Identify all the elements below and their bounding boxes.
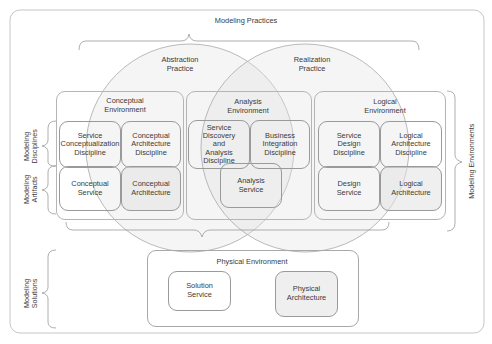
modeling-artifacts-label: Modeling Artifacts bbox=[23, 164, 40, 214]
solutions-brace bbox=[42, 250, 56, 328]
practices-brace bbox=[79, 34, 419, 50]
logical-environment-label: Logical Environment bbox=[345, 98, 425, 115]
box-label: Conceptual Service bbox=[71, 180, 108, 197]
business-integration-discipline-box: Business Integration Discipline bbox=[250, 120, 310, 169]
solution-service-box: Solution Service bbox=[168, 271, 231, 311]
physical-environment-label: Physical Environment bbox=[202, 258, 302, 267]
box-label: Logical Architecture Discipline bbox=[391, 132, 430, 158]
modeling-practices-diagram: Modeling Practices Abstraction Practice … bbox=[0, 0, 492, 344]
modeling-practices-label: Modeling Practices bbox=[196, 17, 296, 26]
box-label: Solution Service bbox=[186, 282, 213, 299]
box-label: Service Design Discipline bbox=[333, 132, 365, 158]
box-label: Service Conceptualization Discipline bbox=[61, 132, 120, 158]
logical-architecture-discipline-box: Logical Architecture Discipline bbox=[380, 121, 442, 168]
modeling-solutions-label: Modeling Solutions bbox=[23, 268, 40, 318]
box-label: Analysis Service bbox=[237, 177, 265, 194]
box-label: Logical Architecture bbox=[391, 180, 430, 197]
conceptual-environment-label: Conceptual Environment bbox=[85, 97, 165, 114]
service-discovery-analysis-discipline-box: Service Discovery and Analysis Disciplin… bbox=[188, 120, 250, 169]
box-label: Conceptual Architecture bbox=[131, 180, 170, 197]
modeling-environments-label: Modeling Environments bbox=[468, 119, 476, 203]
conceptual-architecture-discipline-box: Conceptual Architecture Discipline bbox=[121, 121, 181, 168]
service-conceptualization-discipline-box: Service Conceptualization Discipline bbox=[59, 121, 121, 168]
design-service-box: Design Service bbox=[318, 166, 380, 211]
realization-practice-label: Realization Practice bbox=[272, 56, 352, 73]
box-label: Service Discovery and Analysis Disciplin… bbox=[203, 124, 235, 164]
physical-architecture-box: Physical Architecture bbox=[275, 271, 338, 317]
box-label: Design Service bbox=[337, 180, 362, 197]
box-label: Business Integration Discipline bbox=[263, 132, 298, 158]
abstraction-practice-label: Abstraction Practice bbox=[140, 56, 220, 73]
environments-right-brace bbox=[447, 91, 462, 231]
box-label: Physical Architecture bbox=[287, 285, 326, 302]
logical-architecture-box: Logical Architecture bbox=[380, 166, 442, 211]
conceptual-service-box: Conceptual Service bbox=[59, 166, 121, 211]
disciplines-brace bbox=[42, 121, 56, 166]
analysis-environment-label: Analysis Environment bbox=[208, 98, 288, 115]
analysis-service-box: Analysis Service bbox=[220, 163, 282, 208]
conceptual-architecture-box: Conceptual Architecture bbox=[121, 166, 181, 211]
service-design-discipline-box: Service Design Discipline bbox=[318, 121, 380, 168]
box-label: Conceptual Architecture Discipline bbox=[131, 132, 170, 158]
artifacts-brace bbox=[42, 166, 56, 214]
